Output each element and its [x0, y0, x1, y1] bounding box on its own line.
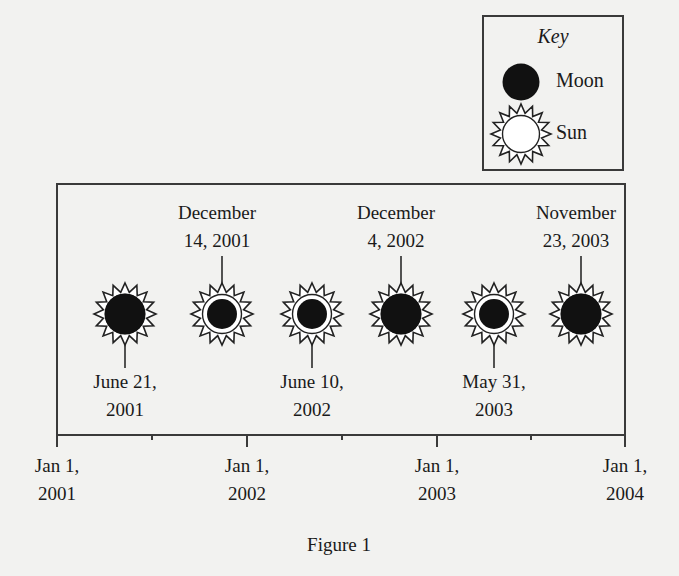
- event-date-line1: December: [178, 199, 256, 227]
- event-date-line2: 2003: [462, 396, 525, 424]
- event-date-line1: June 10,: [280, 368, 343, 396]
- event-date-line2: 14, 2001: [178, 227, 256, 255]
- total-eclipse-icon: [94, 283, 156, 345]
- annular-eclipse-icon: [191, 283, 253, 345]
- axis-date-label: Jan 1,2001: [35, 452, 79, 508]
- event-date-line2: 2001: [93, 396, 156, 424]
- event-date-label: June 21,2001: [93, 368, 156, 424]
- event-date-label: December14, 2001: [178, 199, 256, 255]
- event-date-line1: June 21,: [93, 368, 156, 396]
- axis-date-line1: Jan 1,: [225, 452, 269, 480]
- axis-date-label: Jan 1,2003: [415, 452, 459, 508]
- total-eclipse-icon: [550, 283, 612, 345]
- figure: Key Moon Sun June 21,2001December14, 200…: [0, 0, 679, 576]
- axis-date-label: Jan 1,2002: [225, 452, 269, 508]
- annular-eclipse-icon: [463, 283, 525, 345]
- event-date-line1: November: [536, 199, 616, 227]
- event-date-label: May 31,2003: [462, 368, 525, 424]
- axis-date-line1: Jan 1,: [603, 452, 647, 480]
- axis-date-line2: 2001: [35, 480, 79, 508]
- event-date-line2: 2002: [280, 396, 343, 424]
- figure-caption: Figure 1: [307, 534, 371, 556]
- axis-date-line2: 2003: [415, 480, 459, 508]
- event-date-line1: May 31,: [462, 368, 525, 396]
- event-date-line1: December: [357, 199, 435, 227]
- event-date-line2: 4, 2002: [357, 227, 435, 255]
- total-eclipse-icon: [370, 283, 432, 345]
- axis-date-line2: 2004: [603, 480, 647, 508]
- timeline-graphics: [0, 0, 679, 576]
- event-date-line2: 23, 2003: [536, 227, 616, 255]
- axis-date-line2: 2002: [225, 480, 269, 508]
- axis-date-line1: Jan 1,: [35, 452, 79, 480]
- event-date-label: November23, 2003: [536, 199, 616, 255]
- annular-eclipse-icon: [281, 283, 343, 345]
- event-date-label: June 10,2002: [280, 368, 343, 424]
- axis-date-line1: Jan 1,: [415, 452, 459, 480]
- event-date-label: December4, 2002: [357, 199, 435, 255]
- axis-date-label: Jan 1,2004: [603, 452, 647, 508]
